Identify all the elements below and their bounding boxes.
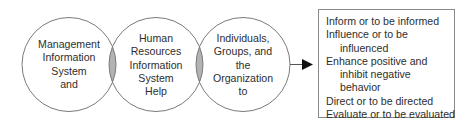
- label-line: Information: [29, 51, 109, 64]
- circle-individuals-label: Individuals, Groups, and the Organizatio…: [203, 32, 283, 98]
- label-line: Help: [116, 85, 196, 98]
- label-line: System: [116, 72, 196, 85]
- label-line: Human: [116, 32, 196, 45]
- arrow-icon: [290, 59, 313, 70]
- outcome-inform: Inform or to be informed: [326, 15, 454, 28]
- label-line: to: [203, 85, 283, 98]
- label-line: the: [203, 59, 283, 72]
- label-line: Management: [29, 38, 109, 51]
- outcome-influence-cont: influenced: [326, 42, 454, 55]
- label-line: Information: [116, 59, 196, 72]
- outcome-enhance-cont-1: inhibit negative: [326, 68, 454, 81]
- outcomes-box: Inform or to be informed Influence or to…: [318, 9, 455, 118]
- outcome-influence: Influence or to be: [326, 28, 454, 41]
- label-line: Individuals,: [203, 32, 283, 45]
- outcome-direct: Direct or to be directed: [326, 95, 454, 108]
- outcome-evaluate: Evaluate or to be evaluated: [326, 108, 454, 121]
- label-line: and: [29, 78, 109, 91]
- label-line: System: [29, 65, 109, 78]
- label-line: Groups, and: [203, 45, 283, 58]
- outcome-enhance-cont-2: behavior: [326, 81, 454, 94]
- outcome-enhance: Enhance positive and: [326, 55, 454, 68]
- circle-mis-label: Management Information System and: [29, 38, 109, 91]
- label-line: Resources: [116, 45, 196, 58]
- circle-hris-label: Human Resources Information System Help: [116, 32, 196, 98]
- label-line: Organization: [203, 72, 283, 85]
